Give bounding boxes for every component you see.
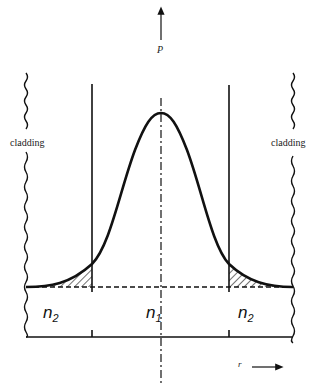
left-evanescent-tail-hatch	[40, 264, 92, 287]
right-cladding-label: cladding	[271, 137, 305, 148]
core-index-label: n1	[146, 303, 162, 324]
fiber-profile-diagram: P cladding cladding n2 n1 n2 r	[0, 0, 318, 383]
right-evanescent-tail-hatch	[229, 264, 282, 287]
left-cladding-label: cladding	[10, 137, 44, 148]
right-cladding-boundary	[292, 73, 295, 343]
left-cladding-index-label: n2	[43, 303, 59, 324]
power-axis-label: P	[156, 44, 163, 55]
radius-axis-label: r	[238, 359, 242, 369]
gaussian-power-curve	[26, 113, 293, 287]
right-cladding-index-label: n2	[238, 303, 254, 324]
left-cladding-boundary	[25, 73, 28, 337]
